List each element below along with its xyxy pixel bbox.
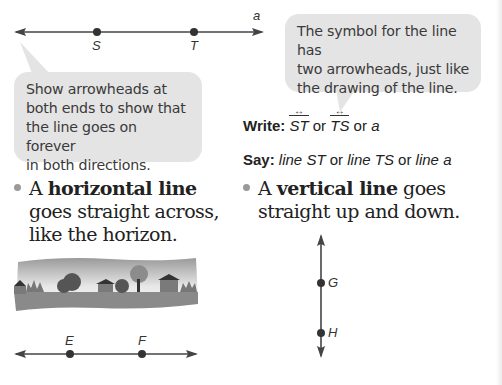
callout-bubble-left: Show arrowheads at both ends to show tha… xyxy=(14,72,202,162)
page-edge-shadow xyxy=(496,0,502,385)
say-option: line ST xyxy=(279,151,326,168)
say-label: Say: xyxy=(243,151,275,168)
definition-line: goes straight across, xyxy=(14,200,254,223)
horizontal-line-definition: A horizontal line goes straight across, … xyxy=(14,177,254,246)
symbol-line-ts: TS xyxy=(330,117,349,134)
symbol-line-a: a xyxy=(371,117,379,134)
point-g-label: G xyxy=(328,275,338,290)
line-a xyxy=(14,28,264,36)
vertical-line-gh xyxy=(317,234,325,358)
bubble-left-line: Show arrowheads at xyxy=(26,80,190,99)
say-option: line a xyxy=(416,151,452,168)
horizontal-line-ef xyxy=(14,350,198,358)
or-text: or xyxy=(398,151,411,168)
write-notation: Write: ST or TS or a xyxy=(243,117,379,134)
definition-line: like the horizon. xyxy=(14,223,254,246)
point-e-label: E xyxy=(65,333,74,348)
or-text: or xyxy=(330,151,343,168)
bubble-left-line: both ends to show that xyxy=(26,99,190,118)
callout-bubble-right: The symbol for the line has two arrowhea… xyxy=(285,14,481,92)
bullet-icon xyxy=(14,184,21,191)
write-label: Write: xyxy=(243,117,285,134)
point-f-label: F xyxy=(138,333,146,348)
or-text: or xyxy=(313,117,326,134)
vertical-line-definition: A vertical line goes straight up and dow… xyxy=(243,177,493,223)
point-f xyxy=(138,350,146,358)
say-option: line TS xyxy=(347,151,394,168)
point-g xyxy=(317,279,325,287)
or-text: or xyxy=(354,117,367,134)
bubble-left-line: the line goes on forever xyxy=(26,118,190,156)
horizon-landscape-image xyxy=(14,258,198,311)
bubble-right-line: The symbol for the line has xyxy=(297,22,469,60)
bubble-right-line: the drawing of the line. xyxy=(297,79,469,98)
point-s-label: S xyxy=(92,38,101,53)
term-horizontal-line: horizontal line xyxy=(48,177,197,199)
point-h xyxy=(317,329,325,337)
point-s xyxy=(93,28,101,36)
article: A xyxy=(258,177,271,199)
bubble-left-line: in both directions. xyxy=(26,156,190,175)
point-e xyxy=(66,350,74,358)
line-a-label: a xyxy=(253,8,260,23)
term-vertical-line: vertical line xyxy=(277,177,398,199)
point-h-label: H xyxy=(328,325,337,340)
bubble-left-tail xyxy=(20,42,52,76)
point-t xyxy=(190,28,198,36)
definition-text: goes xyxy=(403,177,446,199)
point-t-label: T xyxy=(190,38,198,53)
say-notation: Say: line ST or line TS or line a xyxy=(243,151,451,168)
symbol-line-st: ST xyxy=(289,117,308,134)
definition-line: straight up and down. xyxy=(243,200,493,223)
article: A xyxy=(29,177,42,199)
bullet-icon xyxy=(243,184,250,191)
bubble-right-line: two arrowheads, just like xyxy=(297,60,469,79)
